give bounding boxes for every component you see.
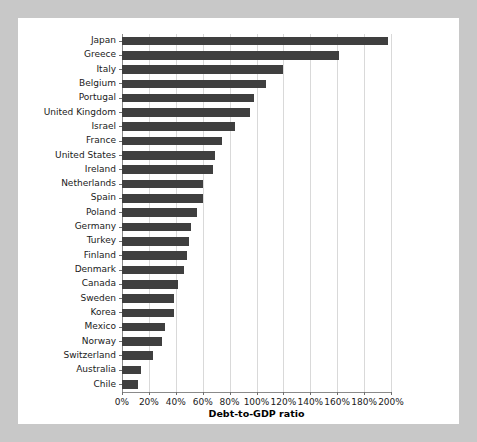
bar-row: Mexico (122, 320, 391, 334)
bar (122, 323, 165, 332)
category-label: Germany (75, 220, 116, 233)
bar-row: United States (122, 149, 391, 163)
bar (122, 194, 203, 203)
bar-row: Netherlands (122, 177, 391, 191)
x-axis-title: Debt-to-GDP ratio (122, 408, 391, 419)
category-label: United Kingdom (44, 106, 116, 119)
chart-card: JapanGreeceItalyBelgiumPortugalUnited Ki… (18, 18, 459, 424)
bar-row: Spain (122, 191, 391, 205)
bar (122, 151, 215, 160)
bar-row: Greece (122, 48, 391, 62)
plot-area: JapanGreeceItalyBelgiumPortugalUnited Ki… (122, 34, 391, 392)
bar-row: Italy (122, 63, 391, 77)
bar-row: Israel (122, 120, 391, 134)
bar (122, 108, 250, 117)
category-label: Japan (91, 34, 116, 47)
category-label: Switzerland (64, 349, 117, 362)
category-label: Spain (91, 191, 116, 204)
category-label: Turkey (87, 234, 116, 247)
bar-row: Poland (122, 206, 391, 220)
category-label: Canada (82, 277, 116, 290)
x-axis-tick (283, 392, 284, 395)
bar-row: United Kingdom (122, 106, 391, 120)
category-label: Sweden (80, 292, 116, 305)
bar-row: Germany (122, 220, 391, 234)
bar-row: Denmark (122, 263, 391, 277)
x-axis-tick-label: 40% (166, 396, 186, 408)
x-axis-tick-label: 200% (378, 396, 404, 408)
bar-row: Japan (122, 34, 391, 48)
x-axis-tick (230, 392, 231, 395)
category-label: France (86, 134, 116, 147)
category-label: Korea (90, 306, 116, 319)
x-axis-tick-label: 0% (115, 396, 129, 408)
x-axis-tick (337, 392, 338, 395)
bar-row: Portugal (122, 91, 391, 105)
category-label: Greece (84, 48, 116, 61)
bar (122, 122, 235, 131)
x-axis-tick (203, 392, 204, 395)
bar (122, 65, 283, 74)
x-axis-tick-label: 160% (324, 396, 350, 408)
bar-row: Sweden (122, 292, 391, 306)
x-axis-tick-label: 140% (297, 396, 323, 408)
bar-row: Finland (122, 249, 391, 263)
bar (122, 337, 162, 346)
bar (122, 223, 191, 232)
bar (122, 37, 388, 46)
bar (122, 251, 187, 260)
bar (122, 80, 266, 89)
x-axis-tick (149, 392, 150, 395)
bar (122, 137, 222, 146)
x-axis-tick-label: 120% (271, 396, 297, 408)
bar-row: Australia (122, 363, 391, 377)
x-axis-tick (391, 392, 392, 395)
gridline-200pct (391, 34, 392, 392)
category-label: Norway (82, 335, 116, 348)
x-axis-tick-label: 180% (351, 396, 377, 408)
category-label: Poland (86, 206, 116, 219)
bar (122, 180, 203, 189)
bar (122, 51, 339, 60)
category-label: Mexico (85, 320, 116, 333)
category-label: Belgium (79, 77, 116, 90)
category-label: United States (55, 149, 116, 162)
category-label: Chile (93, 378, 116, 391)
bar (122, 380, 138, 389)
x-axis-tick-label: 80% (220, 396, 240, 408)
bar (122, 94, 254, 103)
bar (122, 309, 174, 318)
x-axis-tick (122, 392, 123, 395)
bar-row: Chile (122, 378, 391, 392)
x-axis-tick-label: 60% (193, 396, 213, 408)
bar (122, 266, 184, 275)
bar-series: JapanGreeceItalyBelgiumPortugalUnited Ki… (122, 34, 391, 392)
x-axis-tick (257, 392, 258, 395)
x-axis-tick-label: 20% (139, 396, 159, 408)
bar-row: Canada (122, 277, 391, 291)
bar-row: Korea (122, 306, 391, 320)
x-axis-tick (310, 392, 311, 395)
bar (122, 165, 213, 174)
bar-row: Ireland (122, 163, 391, 177)
category-label: Denmark (75, 263, 116, 276)
bar (122, 294, 174, 303)
bar-row: Switzerland (122, 349, 391, 363)
category-label: Finland (84, 249, 116, 262)
category-label: Australia (76, 363, 116, 376)
bar-row: Belgium (122, 77, 391, 91)
bar-row: Turkey (122, 234, 391, 248)
category-label: Italy (96, 63, 116, 76)
bar-row: Norway (122, 335, 391, 349)
bar-row: France (122, 134, 391, 148)
bar (122, 351, 153, 360)
bar (122, 366, 141, 375)
bar (122, 237, 189, 246)
x-axis-tick (364, 392, 365, 395)
bar (122, 208, 197, 217)
x-axis-tick-label: 100% (244, 396, 270, 408)
x-axis-tick (176, 392, 177, 395)
category-label: Portugal (79, 91, 116, 104)
bar (122, 280, 178, 289)
screenshot-root: JapanGreeceItalyBelgiumPortugalUnited Ki… (0, 0, 477, 442)
